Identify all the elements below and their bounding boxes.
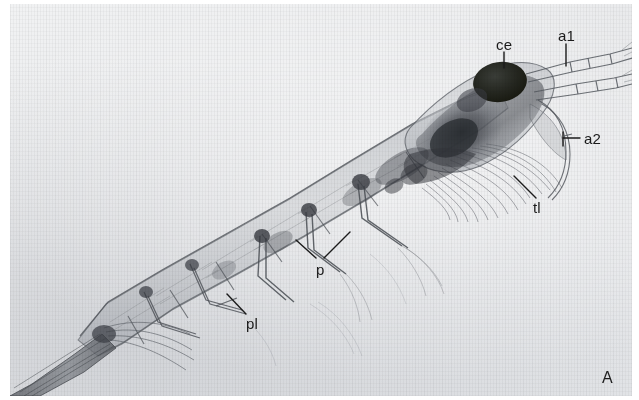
- label-pl: pl: [246, 316, 258, 331]
- label-a2: a2: [584, 131, 601, 146]
- photomicrograph-plate: ce a1 a2 tl p pl A: [10, 4, 632, 396]
- pereopod-setae: [340, 246, 444, 322]
- panel-letter: A: [602, 370, 613, 386]
- label-ce: ce: [496, 37, 512, 52]
- label-tl: tl: [533, 200, 541, 215]
- antennal-scale: [530, 104, 566, 160]
- label-p: p: [316, 262, 325, 277]
- figure-panel: ce a1 a2 tl p pl A: [0, 0, 639, 400]
- label-a1: a1: [558, 28, 575, 43]
- specimen-body-group: [10, 42, 632, 396]
- tail-joint: [92, 325, 116, 343]
- stray-setae: [246, 254, 406, 366]
